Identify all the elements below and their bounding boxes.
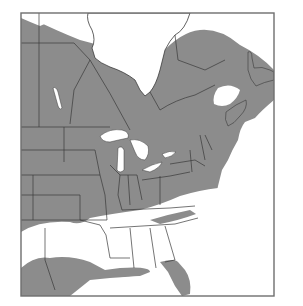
range-map: [0, 0, 303, 306]
lake-michigan: [117, 147, 124, 172]
